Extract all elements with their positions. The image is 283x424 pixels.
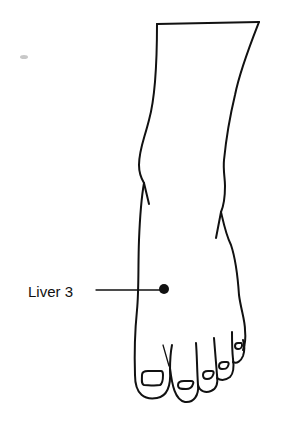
acupoint-label: Liver 3 <box>28 283 73 300</box>
second-toe <box>170 343 198 402</box>
big-toe-nail <box>142 371 163 385</box>
acupoint-marker <box>159 284 169 294</box>
fourth-toe <box>217 332 234 380</box>
foot-diagram: Liver 3 <box>0 0 283 424</box>
toes <box>135 332 245 402</box>
scan-smudge <box>20 55 28 59</box>
fourth-toe-nail <box>219 362 229 369</box>
foot-outline <box>135 22 259 375</box>
leg-right-outline <box>221 22 259 350</box>
little-toe-nail <box>235 343 242 349</box>
ankle-medial-line <box>144 183 149 204</box>
ankle-lateral-line <box>216 212 221 238</box>
leg-top-edge <box>157 22 259 24</box>
acupoint-annotation: Liver 3 <box>28 283 169 300</box>
second-toe-nail <box>178 381 193 389</box>
third-toe-nail <box>203 371 214 379</box>
leg-left-outline <box>135 24 157 375</box>
third-toe <box>198 338 217 392</box>
big-toe-web-line <box>163 345 169 366</box>
